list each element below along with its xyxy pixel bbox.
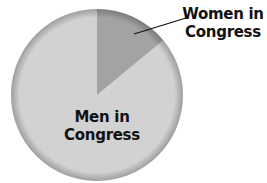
label-women-in-congress: Women in Congress [178,5,267,41]
label-men-line2: Congress [52,126,152,144]
label-men-in-congress: Men in Congress [52,108,152,144]
label-men-line1: Men in [52,108,152,126]
label-women-line2: Congress [178,23,267,41]
label-women-line1: Women in [178,5,267,23]
pie-edge-shade [11,9,183,181]
